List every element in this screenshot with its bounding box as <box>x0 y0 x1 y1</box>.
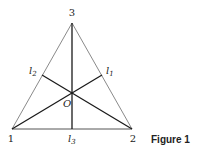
side-1-3 <box>12 23 72 129</box>
vertex-1-label: 1 <box>8 133 14 144</box>
figure-caption: Figure 1 <box>151 134 190 145</box>
foot-l1-label: l1 <box>106 65 114 78</box>
foot-l3-label: l3 <box>68 133 76 146</box>
foot-l2-label: l2 <box>29 65 37 78</box>
centroid-label: O <box>63 98 71 109</box>
triangle-diagram: 3 1 2 l2 l1 l3 O Figure 1 <box>0 0 200 155</box>
vertex-3-label: 3 <box>69 7 75 18</box>
median-2 <box>42 75 132 129</box>
side-3-2 <box>72 23 132 129</box>
median-1 <box>12 75 102 129</box>
vertex-2-label: 2 <box>130 133 136 144</box>
